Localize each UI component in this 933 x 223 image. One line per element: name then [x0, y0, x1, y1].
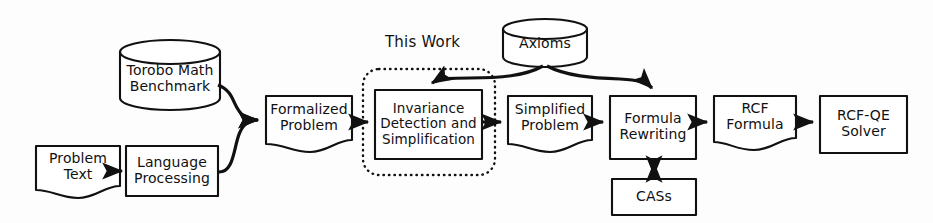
this-work-caption: This Work — [385, 33, 460, 51]
node-problem-text[interactable] — [36, 146, 120, 198]
node-rcf-formula[interactable] — [714, 96, 796, 150]
node-rcf-qe-solver[interactable] — [820, 96, 907, 153]
node-language-processing[interactable] — [126, 146, 218, 196]
node-invariance-detection-and-simplification[interactable] — [375, 90, 482, 159]
node-formalized-problem[interactable] — [266, 96, 352, 152]
node-torobo-math-benchmark[interactable] — [120, 40, 220, 110]
edge-axioms-to-invariance-detection — [432, 66, 543, 83]
node-axioms[interactable] — [503, 19, 587, 67]
edge-benchmark-to-formalized-problem — [218, 85, 258, 120]
node-formula-rewriting[interactable] — [610, 96, 696, 159]
node-cass[interactable] — [612, 179, 696, 215]
edge-language-processing-to-formalized-problem — [219, 120, 258, 172]
node-simplified-problem[interactable] — [508, 96, 592, 152]
pipeline-diagram: This Work Torobo Math Benchmark Axioms P… — [0, 0, 933, 223]
edge-axioms-to-formula-rewriting — [547, 66, 652, 88]
